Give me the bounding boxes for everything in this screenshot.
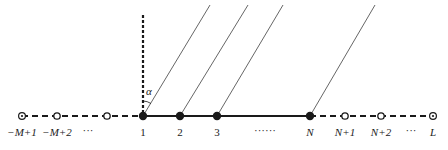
label-n-N: N — [306, 126, 313, 138]
filled-node-n-3 — [213, 112, 221, 120]
label-n-1: 1 — [140, 126, 146, 138]
label-n-N1: N+1 — [335, 126, 355, 138]
label-n-m1: −M+1 — [7, 126, 37, 138]
angle-alpha-label: α — [146, 85, 152, 97]
label-n-2: 2 — [177, 126, 183, 138]
label-n-N2: N+2 — [371, 126, 391, 138]
boundary-node-dot-n-m1 — [21, 115, 23, 117]
label-n-3: 3 — [214, 126, 220, 138]
label-ellipsis-right: ··· — [406, 124, 417, 136]
open-node-n-N1 — [342, 113, 348, 119]
open-node-n-N2 — [378, 113, 384, 119]
incident-ray-4 — [310, 5, 375, 116]
label-n-L: L — [430, 126, 436, 138]
label-n-m2: −M+2 — [42, 126, 72, 138]
filled-node-n-N — [306, 112, 314, 120]
angle-arc-path — [143, 101, 151, 104]
filled-node-n-1 — [139, 112, 147, 120]
incident-ray-1 — [143, 5, 210, 116]
label-ellipsis-mid: ······ — [254, 124, 276, 136]
incident-ray-2 — [180, 5, 248, 116]
open-node-n-m2 — [54, 113, 60, 119]
label-ellipsis-left: ··· — [83, 124, 94, 136]
angle-arc — [143, 101, 151, 104]
filled-node-n-2 — [176, 112, 184, 120]
boundary-node-dot-n-L — [432, 115, 434, 117]
incident-ray-3 — [217, 5, 283, 116]
open-node-n-0 — [104, 113, 110, 119]
incident-rays — [143, 5, 375, 116]
